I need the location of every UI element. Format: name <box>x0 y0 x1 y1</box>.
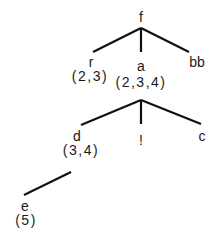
edge-f-bb <box>141 28 189 52</box>
tree-edges <box>0 0 217 239</box>
edge-a-c <box>141 100 201 124</box>
node-r-label: r <box>89 55 94 69</box>
edge-d-e <box>24 172 71 195</box>
node-r-annotation: (2,3) <box>72 69 108 83</box>
node-e-label: e <box>21 199 29 213</box>
node-bang-label: ! <box>139 133 143 147</box>
node-a-label: a <box>137 59 145 73</box>
edge-f-r <box>93 28 141 52</box>
node-f-label: f <box>139 10 143 24</box>
node-a-annotation: (2,3,4) <box>116 75 167 89</box>
node-d-annotation: (3,4) <box>63 143 99 157</box>
node-bb-label: bb <box>189 55 205 69</box>
node-e-annotation: (5) <box>15 213 37 227</box>
edge-a-d <box>81 100 141 125</box>
node-c-label: c <box>199 129 206 143</box>
node-d-label: d <box>73 129 81 143</box>
